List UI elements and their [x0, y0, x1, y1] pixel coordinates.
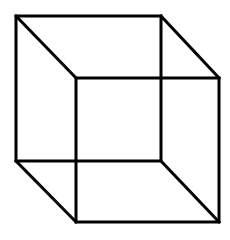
edge-top-right [161, 16, 219, 78]
edge-bottom-left [16, 161, 76, 222]
edge-top-left [16, 16, 76, 78]
edge-bottom-right [161, 161, 219, 222]
necker-cube-diagram [0, 0, 230, 240]
